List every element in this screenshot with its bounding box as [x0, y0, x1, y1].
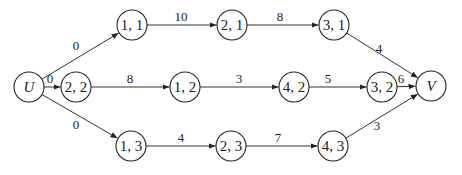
node-label: 2, 1 — [221, 17, 244, 33]
edge-weight-label: 0 — [73, 38, 80, 53]
edge-21-31: 8 — [247, 9, 319, 25]
edge-weight-label: 3 — [374, 118, 381, 133]
diagram-svg: 00010848356473 U1, 12, 13, 12, 21, 24, 2… — [0, 0, 462, 175]
node-label: 1, 1 — [121, 17, 144, 33]
node-label: 1, 2 — [174, 79, 197, 95]
edge-weight-label: 0 — [73, 117, 80, 132]
edge-31-V: 4 — [347, 33, 418, 78]
node-32: 3, 2 — [367, 72, 397, 102]
edge-11-21: 10 — [147, 9, 217, 25]
node-V: V — [416, 71, 446, 101]
node-label: 4, 2 — [283, 79, 306, 95]
node-21: 2, 1 — [217, 10, 247, 40]
edge-weight-label: 4 — [376, 41, 383, 56]
node-label: 2, 2 — [65, 79, 88, 95]
edge-32-V: 6 — [397, 71, 416, 87]
node-22: 2, 2 — [61, 72, 91, 102]
edge-weight-label: 8 — [127, 71, 134, 86]
edge-weight-label: 10 — [175, 9, 188, 24]
edge-weight-label: 8 — [277, 9, 284, 24]
edge-22-12: 8 — [91, 71, 170, 87]
node-42: 4, 2 — [279, 72, 309, 102]
arrow-line — [347, 33, 418, 78]
edge-weight-label: 7 — [275, 130, 282, 145]
edge-weight-label: 4 — [178, 130, 185, 145]
node-11: 1, 1 — [117, 10, 147, 40]
node-12: 1, 2 — [170, 72, 200, 102]
edge-12-42: 3 — [200, 71, 279, 87]
edge-weight-label: 3 — [236, 71, 243, 86]
node-label: 3, 1 — [323, 17, 346, 33]
node-U: U — [14, 72, 44, 102]
edge-weight-label: 0 — [47, 71, 54, 86]
edge-U-22: 0 — [44, 71, 61, 87]
edge-weight-label: 6 — [398, 71, 405, 86]
edge-13-23: 4 — [146, 130, 216, 146]
edge-42-32: 5 — [309, 71, 367, 87]
node-label: 1, 3 — [120, 138, 143, 154]
node-label: 2, 3 — [220, 138, 243, 154]
node-label: 3, 2 — [371, 79, 394, 95]
node-label: U — [24, 79, 36, 95]
edge-23-43: 7 — [246, 130, 318, 146]
node-23: 2, 3 — [216, 131, 246, 161]
nodes-group: U1, 12, 13, 12, 21, 24, 23, 2V1, 32, 34,… — [14, 10, 446, 161]
edge-weight-label: 5 — [325, 71, 332, 86]
node-43: 4, 3 — [318, 131, 348, 161]
node-label: 4, 3 — [322, 138, 345, 154]
node-13: 1, 3 — [116, 131, 146, 161]
node-31: 3, 1 — [319, 10, 349, 40]
network-diagram: 00010848356473 U1, 12, 13, 12, 21, 24, 2… — [0, 0, 462, 175]
